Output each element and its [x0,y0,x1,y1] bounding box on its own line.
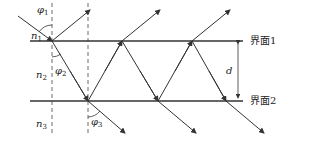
angle-label-phi3: φ3 [91,117,102,129]
medium-label-n1: n1 [31,31,42,43]
thickness-label: d [226,66,232,76]
transmitted-up-ray-2 [192,10,230,41]
medium-label-n2: n2 [36,70,47,82]
angle-arc-phi2 [52,54,61,57]
transmitted-down-ray-2 [158,101,196,133]
interface-1-label: 界面1 [250,36,276,46]
transmitted-up-ray-1 [122,10,160,41]
angle-label-phi2: φ2 [55,66,66,78]
interface-2-label: 界面2 [250,96,276,106]
internal-rays [52,41,226,101]
reflected-ray [52,10,90,41]
angle-label-phi1: φ1 [37,5,48,17]
medium-label-n3: n3 [36,119,47,131]
